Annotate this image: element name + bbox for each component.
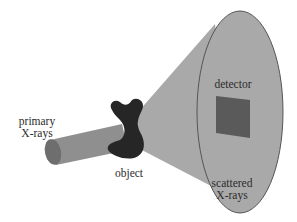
scattered-label-line2: X-rays bbox=[204, 189, 260, 201]
primary-label-line1: primary bbox=[12, 115, 62, 127]
primary-label-line2: X-rays bbox=[12, 127, 62, 139]
xray-scatter-diagram: primary X-rays object detector scattered… bbox=[0, 0, 297, 222]
scattered-xrays-label: scattered X-rays bbox=[204, 177, 260, 201]
detector-label: detector bbox=[210, 78, 256, 90]
detector-square bbox=[216, 96, 250, 138]
object-label: object bbox=[104, 167, 154, 179]
primary-xrays-label: primary X-rays bbox=[12, 115, 62, 139]
scattered-label-line1: scattered bbox=[204, 177, 260, 189]
